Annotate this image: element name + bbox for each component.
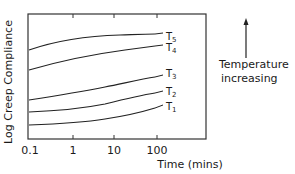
creep-compliance-chart: 0.1 1 10 100 Time (mins) Log Creep Compl… xyxy=(0,0,295,174)
leader-t1 xyxy=(155,105,163,108)
x-tick-label-10: 10 xyxy=(107,144,121,157)
leader-t5 xyxy=(155,33,163,34)
arrow-up-icon xyxy=(244,18,249,25)
curve-t2 xyxy=(29,93,155,112)
curve-t5 xyxy=(29,34,155,50)
leader-t3 xyxy=(155,75,163,77)
curve-t4 xyxy=(29,46,155,70)
y-axis-label: Log Creep Compliance xyxy=(2,20,15,144)
x-axis-label: Time (mins) xyxy=(156,158,222,171)
x-tick-label-100: 100 xyxy=(147,144,168,157)
x-tick-label-0.1: 0.1 xyxy=(21,144,39,157)
plot-frame xyxy=(28,14,206,139)
leader-t4 xyxy=(155,45,163,46)
x-tick-label-1: 1 xyxy=(70,144,77,157)
series-label-t2: T2 xyxy=(165,86,177,99)
leader-t2 xyxy=(155,91,163,93)
annotation-line2: increasing xyxy=(221,72,278,85)
series-label-t3: T3 xyxy=(165,68,177,81)
series-label-t1: T1 xyxy=(165,101,177,114)
annotation-line1: Temperature xyxy=(218,58,289,71)
